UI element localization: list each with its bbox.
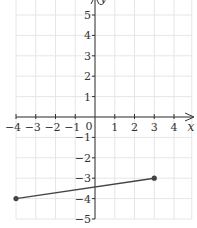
endpoint-dot: [152, 176, 157, 181]
x-tick-label: −3: [25, 121, 41, 134]
y-tick-label: −2: [75, 152, 91, 165]
y-tick-label: 2: [84, 70, 91, 83]
endpoint-dot: [13, 196, 18, 201]
x-tick-label: 3: [151, 121, 158, 134]
y-tick-label: 5: [84, 9, 91, 22]
tick-labels: −4−3−2−112340x54321−1−2−3−4−5y: [5, 0, 195, 226]
coordinate-plane: −4−3−2−112340x54321−1−2−3−4−5y: [0, 0, 197, 228]
x-tick-label: −2: [44, 121, 60, 134]
x-axis-label: x: [188, 120, 195, 134]
y-tick-label: −4: [75, 193, 91, 206]
y-tick-label: −1: [75, 131, 91, 144]
x-tick-label: 4: [171, 121, 178, 134]
y-tick-label: 1: [84, 91, 91, 104]
y-tick-label: 3: [84, 50, 91, 63]
y-tick-label: −3: [75, 172, 91, 185]
y-tick-label: −5: [75, 213, 91, 226]
x-tick-label: 2: [131, 121, 138, 134]
y-axis-label: y: [99, 0, 107, 5]
x-tick-label: 1: [111, 121, 118, 134]
y-tick-label: 4: [84, 29, 91, 42]
x-tick-label: −4: [5, 121, 21, 134]
